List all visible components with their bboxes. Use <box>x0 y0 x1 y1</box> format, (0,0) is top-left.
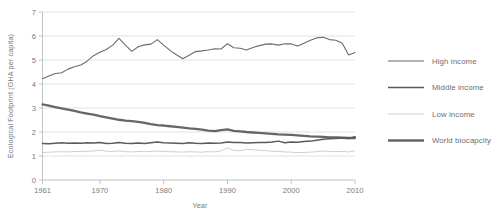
y-tick-label-2: 2 <box>32 128 36 137</box>
y-tick-label-4: 4 <box>32 80 36 89</box>
y-tick-label-5: 5 <box>32 56 36 65</box>
ecological-footprint-chart: 01234567 196119701980199020002010 Ecolog… <box>0 0 503 223</box>
y-tick-label-0: 0 <box>32 176 36 185</box>
x-tick-label-1970: 1970 <box>91 186 108 195</box>
y-axis-title: Ecological Footprint (GHA per capita) <box>6 34 15 158</box>
x-tick-label-1990: 1990 <box>219 186 236 195</box>
x-axis-title: Year <box>192 201 208 210</box>
x-tick-label-2000: 2000 <box>283 186 300 195</box>
legend-label-low-income: Low income <box>432 110 475 119</box>
y-tick-label-1: 1 <box>32 152 36 161</box>
legend-label-high-income: High income <box>432 57 477 66</box>
x-tick-label-1980: 1980 <box>155 186 172 195</box>
x-tick-label-2010: 2010 <box>347 186 364 195</box>
y-tick-label-6: 6 <box>32 32 36 41</box>
y-tick-label-7: 7 <box>32 8 36 17</box>
legend-label-world-biocapcity: World biocapcity <box>432 136 491 145</box>
legend-label-middle-income: Middle income <box>432 83 484 92</box>
y-tick-label-3: 3 <box>32 104 36 113</box>
x-tick-label-1961: 1961 <box>34 186 51 195</box>
